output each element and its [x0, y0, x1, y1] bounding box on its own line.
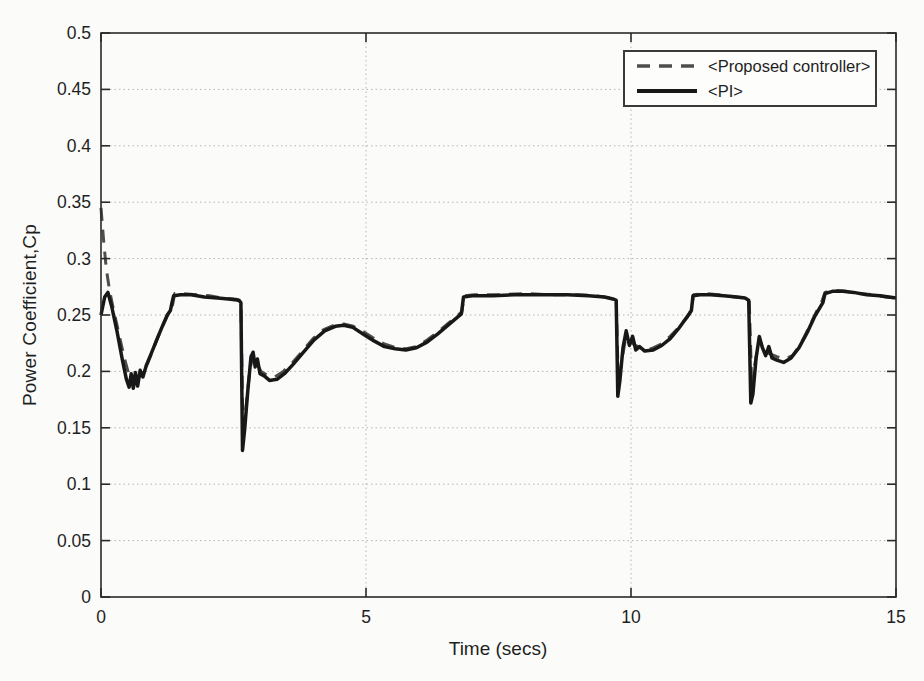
tick-labels: 05101500.050.10.150.20.250.30.350.40.450… — [57, 23, 906, 627]
y-tick-label: 0.25 — [57, 305, 91, 325]
y-tick-label: 0.5 — [67, 23, 91, 43]
legend-item-pi: <PI> — [635, 80, 865, 102]
y-tick-label: 0 — [81, 587, 91, 607]
figure: 05101500.050.10.150.20.250.30.350.40.450… — [0, 0, 924, 681]
y-tick-label: 0.1 — [67, 474, 91, 494]
y-tick-label: 0.05 — [57, 531, 91, 551]
y-tick-label: 0.2 — [67, 361, 91, 381]
y-tick-label: 0.45 — [57, 79, 91, 99]
y-axis-title: Power Coefficient,Cp — [19, 224, 41, 406]
y-tick-label: 0.3 — [67, 249, 91, 269]
legend-label-proposed-controller: <Proposed controller> — [708, 57, 870, 76]
series-line-proposed-controller — [101, 208, 896, 437]
gridlines — [101, 33, 896, 597]
x-tick-label: 5 — [361, 607, 371, 627]
solid-line-sample-icon — [635, 87, 699, 95]
x-tick-label: 10 — [621, 607, 641, 627]
x-axis-title: Time (secs) — [449, 638, 548, 660]
y-tick-label: 0.35 — [57, 192, 91, 212]
x-tick-label: 0 — [96, 607, 106, 627]
legend-item-proposed-controller: <Proposed controller> — [635, 55, 865, 77]
legend-label-pi: <PI> — [708, 82, 743, 101]
legend: <Proposed controller> <PI> — [623, 50, 877, 107]
y-tick-label: 0.4 — [67, 136, 92, 156]
dashed-line-sample-icon — [635, 62, 699, 70]
x-tick-label: 15 — [886, 607, 905, 627]
y-tick-label: 0.15 — [57, 418, 91, 438]
